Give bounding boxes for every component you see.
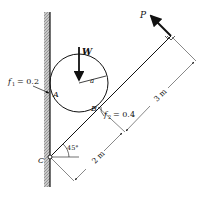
force-P: P bbox=[139, 10, 171, 36]
angle-label: 45° bbox=[67, 144, 79, 152]
f1-subscript: 1 bbox=[12, 81, 15, 87]
wall bbox=[44, 12, 50, 187]
wall-hatch bbox=[44, 12, 50, 187]
dim-2m-arrow-upper bbox=[104, 133, 122, 151]
point-C-label: C bbox=[38, 156, 44, 165]
contact-B: B f 2 = 0.4 bbox=[90, 104, 135, 120]
force-P-label: P bbox=[139, 10, 147, 20]
weight-label: W bbox=[82, 47, 93, 57]
dimensions: 2 m 3 m bbox=[51, 37, 196, 181]
weight-arrow: W bbox=[79, 47, 93, 80]
dim-3m-label: 3 m bbox=[152, 87, 168, 103]
contact-A: A f 1 = 0.2 bbox=[7, 77, 59, 99]
extension-line-C bbox=[51, 158, 74, 181]
point-A-label: A bbox=[52, 90, 59, 99]
dim-3m-arrow-upper bbox=[168, 62, 194, 88]
radius-label: a bbox=[90, 77, 94, 85]
point-B-label: B bbox=[90, 104, 97, 113]
f2-value: = 0.4 bbox=[113, 110, 135, 119]
f1-value: = 0.2 bbox=[17, 77, 39, 86]
dim-2m-arrow-lower bbox=[75, 169, 86, 180]
extension-line-top bbox=[172, 37, 196, 61]
up-left-arrow-icon bbox=[151, 16, 171, 36]
statics-diagram: a W A f 1 = 0.2 P B f 2 = 0.4 C bbox=[0, 0, 206, 205]
dim-2m-label: 2 m bbox=[90, 149, 106, 165]
